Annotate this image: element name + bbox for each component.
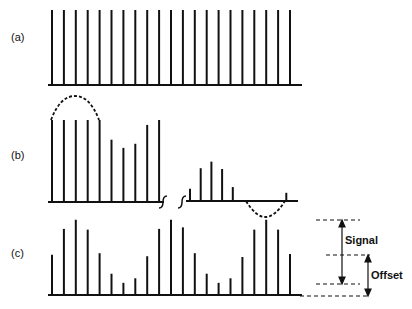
signal-arrowhead-down-icon <box>339 277 345 284</box>
offset-arrowhead-down-icon <box>365 289 371 296</box>
offset-arrowhead-up-icon <box>365 255 371 262</box>
panel-a-label: (a) <box>11 31 24 43</box>
signal-arrowhead-up-icon <box>339 220 345 227</box>
panel-c-label: (c) <box>11 247 24 259</box>
panel-b-lower-envelope <box>246 201 285 217</box>
panel-b-clipped-signal <box>48 96 298 217</box>
axis-break-right-icon <box>178 196 186 208</box>
signal-offset-annotation <box>300 220 371 296</box>
panel-c-offset-signal <box>48 220 302 295</box>
offset-label: Offset <box>371 269 403 281</box>
signal-label: Signal <box>345 234 378 246</box>
panel-b-label: (b) <box>11 149 24 161</box>
figure-canvas: (a) (b) (c) Signal Offset <box>0 0 412 309</box>
panel-a-pulse-train <box>48 10 302 85</box>
panel-b-upper-envelope <box>51 96 99 120</box>
